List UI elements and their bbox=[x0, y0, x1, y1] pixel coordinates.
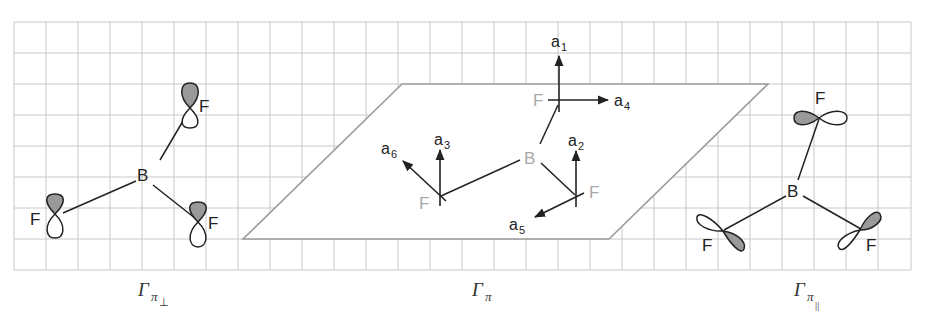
atom-f-right: F bbox=[866, 236, 876, 255]
bond-b-f-right bbox=[803, 196, 861, 229]
svg-text:a: a bbox=[434, 131, 443, 148]
svg-text:5: 5 bbox=[519, 224, 525, 236]
svg-text:⊥: ⊥ bbox=[159, 296, 169, 308]
svg-text:a: a bbox=[381, 140, 390, 157]
atom-b-center: B bbox=[137, 166, 148, 185]
atom-f-left: F bbox=[419, 194, 429, 213]
caption-gamma-pi-parallel: Γ π || bbox=[793, 279, 819, 311]
svg-text:a: a bbox=[568, 132, 577, 149]
p-orbital-left-f bbox=[47, 194, 64, 238]
atom-f-right: F bbox=[208, 214, 218, 233]
svg-text:π: π bbox=[807, 289, 814, 304]
svg-text:a: a bbox=[551, 33, 560, 50]
atom-f-right: F bbox=[589, 183, 599, 202]
atom-f-left: F bbox=[702, 236, 712, 255]
svg-text:π: π bbox=[485, 289, 492, 304]
svg-text:||: || bbox=[815, 299, 819, 311]
p-orbital-top-f bbox=[794, 111, 847, 125]
svg-text:4: 4 bbox=[624, 100, 630, 112]
bond-b-f-left bbox=[724, 196, 786, 230]
svg-text:2: 2 bbox=[578, 140, 584, 152]
svg-text:1: 1 bbox=[561, 41, 567, 53]
svg-text:π: π bbox=[151, 289, 158, 304]
caption-gamma-pi-perp: Γ π ⊥ bbox=[137, 279, 169, 308]
atom-f-left: F bbox=[30, 210, 40, 229]
bf3-pi-orbital-diagram: F F F B Γ π ⊥ F F bbox=[0, 0, 927, 324]
atom-f-top: F bbox=[815, 89, 825, 108]
p-orbital-right-f bbox=[190, 202, 207, 247]
svg-text:Γ: Γ bbox=[137, 279, 150, 300]
svg-text:6: 6 bbox=[391, 148, 397, 160]
svg-text:3: 3 bbox=[444, 139, 450, 151]
molecular-plane bbox=[243, 84, 768, 239]
bond-b-f-top bbox=[798, 119, 819, 180]
label-a1: a 1 bbox=[551, 33, 567, 53]
panel-pi-perpendicular: F F F B Γ π ⊥ bbox=[30, 83, 218, 308]
p-orbital-top-f bbox=[182, 83, 199, 128]
atom-b-center: B bbox=[524, 149, 535, 168]
svg-text:Γ: Γ bbox=[793, 279, 806, 300]
svg-text:a: a bbox=[614, 92, 623, 109]
svg-text:Γ: Γ bbox=[471, 279, 484, 300]
atom-f-top: F bbox=[199, 97, 209, 116]
panel-pi: F F F B a 1 a 4 a 3 a 6 a 2 bbox=[243, 33, 768, 304]
caption-gamma-pi: Γ π bbox=[471, 279, 492, 304]
svg-text:a: a bbox=[509, 216, 518, 233]
bond-b-f-top bbox=[160, 121, 183, 160]
atom-b-center: B bbox=[787, 182, 798, 201]
atom-f-top: F bbox=[533, 91, 543, 110]
